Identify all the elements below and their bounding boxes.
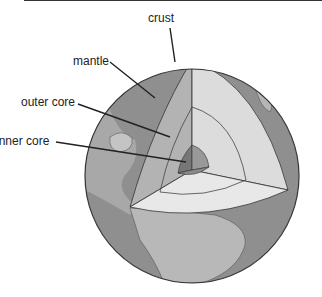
- mantle-label: mantle: [73, 55, 109, 67]
- crust-leader: [170, 28, 175, 62]
- europe-land: [160, 47, 195, 66]
- outer-core-label: outer core: [21, 96, 75, 108]
- inner-core-label: inner core: [0, 135, 49, 147]
- earth-diagram: [0, 0, 322, 297]
- crust-label: crust: [148, 12, 174, 24]
- globe: [75, 47, 299, 285]
